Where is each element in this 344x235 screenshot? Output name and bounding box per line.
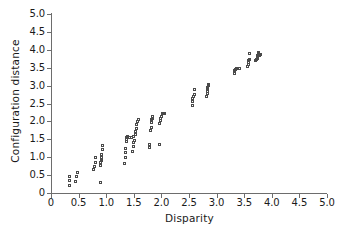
data-point <box>133 139 136 142</box>
y-tick-mark <box>47 104 51 105</box>
y-tick-label: 1.0 <box>5 151 45 162</box>
data-point <box>74 180 77 183</box>
data-point <box>158 143 161 146</box>
x-tick-label: 5.0 <box>310 197 344 208</box>
data-point <box>101 144 104 147</box>
y-tick-mark <box>47 68 51 69</box>
y-tick-mark <box>47 32 51 33</box>
y-axis-line <box>51 13 52 194</box>
data-point <box>163 112 166 115</box>
data-point <box>238 67 241 70</box>
data-point <box>259 53 262 56</box>
y-tick-mark <box>47 139 51 140</box>
data-point <box>150 126 153 129</box>
data-point <box>124 151 127 154</box>
data-point <box>101 148 104 151</box>
data-point <box>68 179 71 182</box>
y-tick-label: 1.5 <box>5 133 45 144</box>
data-point <box>94 161 97 164</box>
data-point <box>99 181 102 184</box>
data-point <box>191 100 194 103</box>
data-point <box>124 156 127 159</box>
data-point <box>134 130 137 133</box>
data-point <box>207 83 210 86</box>
y-tick-mark <box>47 175 51 176</box>
y-tick-label: 5.0 <box>5 8 45 19</box>
y-tick-label: 3.0 <box>5 80 45 91</box>
y-tick-label: 0.5 <box>5 169 45 180</box>
data-point <box>99 164 102 167</box>
data-point <box>158 122 161 125</box>
y-tick-mark <box>47 14 51 15</box>
data-point <box>134 133 137 136</box>
data-point <box>123 162 126 165</box>
data-point <box>76 171 79 174</box>
data-point <box>193 93 196 96</box>
data-point <box>248 52 251 55</box>
data-point <box>193 88 196 91</box>
data-point <box>149 129 152 132</box>
data-point <box>206 92 209 95</box>
x-axis-label: Disparity <box>52 212 327 224</box>
data-point <box>148 143 151 146</box>
data-point <box>124 147 127 150</box>
y-tick-label: 3.5 <box>5 62 45 73</box>
data-point <box>132 145 135 148</box>
data-point <box>248 58 251 61</box>
data-point <box>93 165 96 168</box>
data-point <box>151 115 154 118</box>
data-point <box>131 150 134 153</box>
data-point <box>191 104 194 107</box>
data-point <box>135 123 138 126</box>
data-point <box>92 168 95 171</box>
y-tick-label: 2.0 <box>5 115 45 126</box>
data-point <box>75 175 78 178</box>
data-point <box>68 175 71 178</box>
y-tick-mark <box>47 121 51 122</box>
y-tick-mark <box>47 50 51 51</box>
data-point <box>135 127 138 130</box>
data-point <box>205 95 208 98</box>
y-tick-label: 4.5 <box>5 26 45 37</box>
data-point <box>137 118 140 121</box>
shepard-scatter-figure: Configuration distance Disparity 00.51.0… <box>0 0 344 235</box>
y-tick-mark <box>47 86 51 87</box>
y-tick-mark <box>47 157 51 158</box>
data-point <box>100 156 103 159</box>
y-tick-label: 2.5 <box>5 98 45 109</box>
data-point <box>100 153 103 156</box>
data-point <box>94 156 97 159</box>
y-tick-label: 4.0 <box>5 44 45 55</box>
data-point <box>68 184 71 187</box>
